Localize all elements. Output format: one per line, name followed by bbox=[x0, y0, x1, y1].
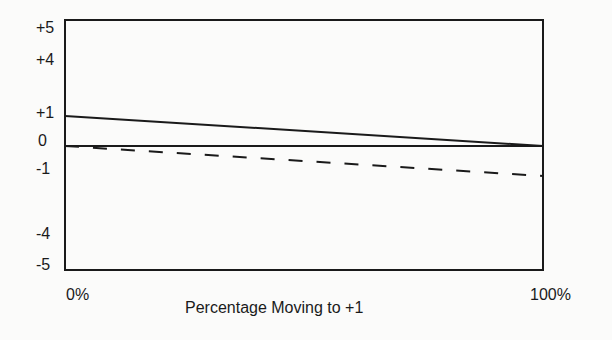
y-tick-plus5: +5 bbox=[36, 20, 54, 36]
y-tick-minus4: -4 bbox=[36, 226, 50, 242]
y-tick-minus1: -1 bbox=[36, 161, 50, 177]
x-tick-100: 100% bbox=[530, 287, 571, 303]
dashed-series-line bbox=[65, 146, 543, 176]
y-tick-plus1: +1 bbox=[36, 105, 54, 121]
solid-series-line bbox=[65, 116, 543, 146]
x-axis-title: Percentage Moving to +1 bbox=[185, 299, 363, 317]
plot-area bbox=[0, 0, 612, 340]
x-tick-0: 0% bbox=[66, 287, 89, 303]
chart: +5 +4 +1 0 -1 -4 -5 0% 100% Percentage M… bbox=[0, 0, 612, 340]
y-tick-plus4: +4 bbox=[36, 52, 54, 68]
y-tick-zero: 0 bbox=[38, 133, 47, 149]
y-tick-minus5: -5 bbox=[36, 257, 50, 273]
